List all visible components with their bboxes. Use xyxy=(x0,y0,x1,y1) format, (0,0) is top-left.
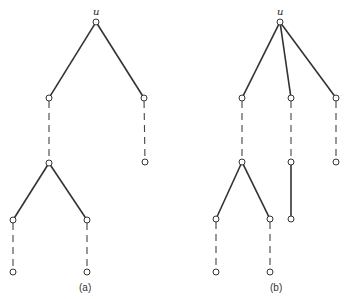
solid-edge xyxy=(15,166,48,218)
tree-node xyxy=(277,19,283,25)
solid-edge xyxy=(98,25,143,96)
tree-node xyxy=(10,217,16,223)
solid-edge xyxy=(51,25,95,96)
tree-node xyxy=(84,269,90,275)
tree-diagram: u u (a) (b) xyxy=(0,0,349,299)
tree-node xyxy=(288,216,294,222)
root-label-b: u xyxy=(277,6,283,17)
tree-node xyxy=(239,159,245,165)
caption-b: (b) xyxy=(270,282,282,293)
panel-b-tree xyxy=(213,19,339,275)
tree-node xyxy=(93,19,99,25)
tree-node xyxy=(46,160,52,166)
root-label-a: u xyxy=(93,6,99,17)
tree-node xyxy=(239,95,245,101)
solid-edge xyxy=(243,165,268,217)
tree-node xyxy=(267,216,273,222)
caption-a: (a) xyxy=(79,282,91,293)
tree-node xyxy=(333,159,339,165)
tree-node xyxy=(142,159,148,165)
tree-node xyxy=(84,217,90,223)
solid-edge xyxy=(217,165,241,217)
solid-edge xyxy=(243,25,278,96)
tree-node xyxy=(213,269,219,275)
tree-node xyxy=(267,269,273,275)
tree-node xyxy=(213,216,219,222)
solid-edge xyxy=(51,165,86,217)
tree-node xyxy=(10,269,16,275)
tree-node xyxy=(46,95,52,101)
tree-node xyxy=(288,95,294,101)
tree-node xyxy=(288,159,294,165)
panel-a-tree xyxy=(10,19,148,275)
tree-node xyxy=(141,95,147,101)
dashed-edge xyxy=(144,101,145,159)
tree-node xyxy=(333,95,339,101)
